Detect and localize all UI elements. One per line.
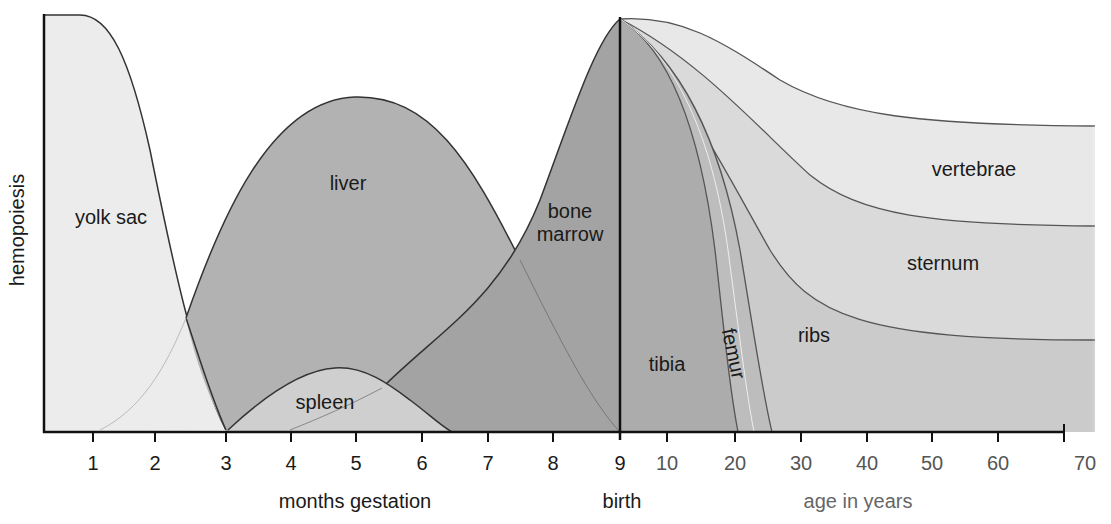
tick-month-8: 8 (547, 452, 558, 474)
hemopoiesis-chart: 1 2 3 4 5 6 7 8 9 10 20 30 40 50 60 70 m… (0, 0, 1111, 524)
label-sternum: sternum (907, 252, 979, 274)
tick-month-3: 3 (220, 452, 231, 474)
tick-year-70: 70 (1074, 452, 1096, 474)
tick-month-6: 6 (416, 452, 427, 474)
tick-month-5: 5 (350, 452, 361, 474)
label-bone: bone (548, 200, 593, 222)
tick-month-2: 2 (149, 452, 160, 474)
tick-year-60: 60 (987, 452, 1009, 474)
tick-month-4: 4 (285, 452, 296, 474)
tick-year-10: 10 (656, 452, 678, 474)
tick-year-30: 30 (790, 452, 812, 474)
tick-month-9: 9 (614, 452, 625, 474)
label-marrow: marrow (537, 223, 604, 245)
tick-year-20: 20 (724, 452, 746, 474)
x-axis-title-gestation: months gestation (279, 490, 431, 512)
x-tick-labels-years: 10 20 30 40 50 60 70 (656, 452, 1096, 474)
tick-year-50: 50 (921, 452, 943, 474)
x-axis-title-age: age in years (804, 490, 913, 512)
label-tibia: tibia (649, 353, 687, 375)
tick-year-40: 40 (856, 452, 878, 474)
label-yolk-sac: yolk sac (75, 206, 147, 228)
tick-month-7: 7 (482, 452, 493, 474)
label-liver: liver (330, 172, 367, 194)
tick-month-1: 1 (87, 452, 98, 474)
y-axis-title: hemopoiesis (6, 174, 28, 286)
x-tick-labels-months: 1 2 3 4 5 6 7 8 9 (87, 452, 625, 474)
label-ribs: ribs (798, 324, 830, 346)
label-vertebrae: vertebrae (932, 158, 1017, 180)
label-spleen: spleen (296, 391, 355, 413)
postnatal-areas (620, 10, 1111, 432)
x-axis-title-birth: birth (603, 490, 642, 512)
